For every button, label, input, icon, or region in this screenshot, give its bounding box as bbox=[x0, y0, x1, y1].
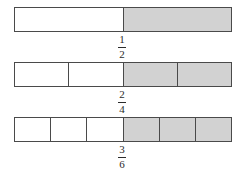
fraction-bar-1 bbox=[14, 7, 232, 32]
bar-cell bbox=[124, 63, 178, 86]
fraction-denominator: 6 bbox=[112, 159, 132, 171]
fraction-denominator: 2 bbox=[112, 49, 132, 61]
bar-cell bbox=[15, 8, 124, 31]
bar-cell bbox=[124, 118, 160, 141]
bar-cell bbox=[87, 118, 123, 141]
bar-cell bbox=[15, 118, 51, 141]
bar-cell bbox=[69, 63, 123, 86]
fraction-denominator: 4 bbox=[112, 104, 132, 116]
fraction-bar-2 bbox=[14, 62, 232, 87]
fraction-numerator: 2 bbox=[112, 89, 132, 101]
bar-cell bbox=[15, 63, 69, 86]
bar-cell bbox=[196, 118, 231, 141]
fraction-numerator: 1 bbox=[112, 34, 132, 46]
fraction-label-2: 2 4 bbox=[112, 89, 132, 115]
fraction-label-1: 1 2 bbox=[112, 34, 132, 60]
fraction-label-3: 3 6 bbox=[112, 144, 132, 170]
fraction-numerator: 3 bbox=[112, 144, 132, 156]
fraction-bars-figure: 1 2 2 4 3 6 bbox=[0, 0, 245, 174]
bar-cell bbox=[178, 63, 231, 86]
bar-cell bbox=[51, 118, 87, 141]
bar-cell bbox=[160, 118, 196, 141]
bar-cell bbox=[124, 8, 232, 31]
fraction-bar-3 bbox=[14, 117, 232, 142]
